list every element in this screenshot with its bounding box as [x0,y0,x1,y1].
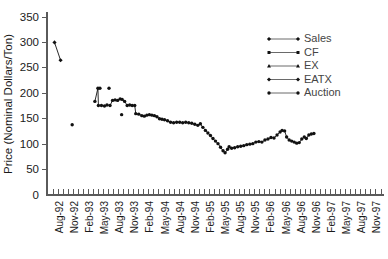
x-axis-tick-label: Aug-93 [114,201,125,234]
data-point [285,135,288,138]
data-point [187,121,190,124]
data-point [219,145,222,148]
legend-item-cf: CF [268,46,319,58]
data-point [134,112,137,115]
x-axis-tick-label: Nov-94 [190,201,201,234]
data-point [223,151,226,154]
x-axis-tick-label: Aug-97 [356,201,367,234]
x-axis-tick-label: Feb-97 [326,201,337,233]
data-point [184,121,187,124]
x-axis-tick-label: Nov-96 [311,201,322,234]
data-point [211,137,214,140]
data-point [269,136,272,139]
data-point [70,123,73,126]
x-axis-tick-label: Nov-92 [69,201,80,234]
x-axis-tick-label: Nov-95 [250,201,261,234]
data-point [93,100,96,103]
x-axis-tick-label: Feb-96 [265,201,276,233]
y-axis-tick-label: 350 [20,11,39,23]
data-point [251,142,254,145]
y-axis-tick-label: 250 [20,61,39,73]
x-axis-tick-label: Nov-93 [129,201,140,234]
y-axis-tick-label: 0 [33,189,39,201]
data-point [214,139,217,142]
x-axis-tick-label: Aug-95 [235,201,246,234]
data-point [123,100,126,103]
y-axis-tick-label: 300 [20,36,39,48]
data-point [206,131,209,134]
legend-label: Auction [304,86,341,98]
x-axis-tick-label: Aug-96 [296,201,307,234]
data-point [263,138,266,141]
x-axis-tick-label: Feb-95 [205,201,216,233]
data-point [120,113,123,116]
data-point [105,103,108,106]
y-axis-tick-label: 100 [20,138,39,150]
data-point [100,104,103,107]
data-point [216,142,219,145]
legend-label: EATX [304,73,333,85]
legend-marker-start [268,51,271,54]
data-point [230,147,233,150]
legend-label: EX [304,59,319,71]
data-point [193,123,196,126]
x-axis-tick-label: May-93 [99,201,110,235]
series-cf [70,123,73,126]
legend-marker-start [267,77,271,81]
legend-label: CF [304,46,319,58]
x-axis-tick-label: Feb-93 [84,201,95,233]
legend-marker-end [296,91,299,94]
legend-item-ex: EX [267,59,319,71]
series-auction [93,87,315,155]
legend-marker-start [267,37,271,41]
chart-container: 050100150200250300350 Aug-92Nov-92Feb-93… [0,0,388,259]
legend-item-eatx: EATX [267,73,333,85]
series-line-auction [95,88,314,153]
data-point [52,40,56,44]
data-point [275,133,278,136]
data-point [199,122,202,125]
y-axis-tick-label: 200 [20,87,39,99]
data-series-group [52,40,315,154]
x-axis-tick-label: May-94 [160,201,171,235]
data-point [245,143,248,146]
data-point [254,140,257,143]
data-point [107,87,110,90]
x-axis-tick-label: Aug-94 [175,201,186,234]
series-eatx [107,87,110,90]
chart-legend: SalesCFEXEATXAuction [267,32,341,98]
legend-marker-end [296,77,300,81]
data-point [163,118,166,121]
series-ex [98,87,123,117]
data-point [96,87,99,90]
legend-marker-start [267,91,270,94]
data-point [236,145,239,148]
data-point [97,104,100,107]
data-point [233,146,236,149]
data-point [248,142,251,145]
data-point [312,132,315,135]
y-axis: 050100150200250300350 [20,11,47,201]
series-line-sales [55,42,61,60]
y-axis-title: Price (Nominal Dollars/Ton) [2,34,14,174]
data-point [201,126,204,129]
data-point [283,129,286,132]
data-point [272,136,275,139]
data-point [172,121,175,124]
data-point [190,122,193,125]
data-point [204,129,207,132]
y-axis-tick-label: 150 [20,112,39,124]
data-point [181,121,184,124]
data-point [257,140,260,143]
data-point [305,137,308,140]
data-point [166,119,169,122]
data-point [209,134,212,137]
data-point [178,121,181,124]
price-line-chart: 050100150200250300350 Aug-92Nov-92Feb-93… [0,0,388,259]
x-axis-tick-label: Aug-92 [54,201,65,234]
x-axis-tick-label: May-97 [341,201,352,235]
x-axis-tick-label: May-95 [220,201,231,235]
x-axis-tick-label: Feb-94 [144,201,155,233]
legend-item-sales: Sales [267,32,332,44]
legend-marker-end [297,51,300,54]
